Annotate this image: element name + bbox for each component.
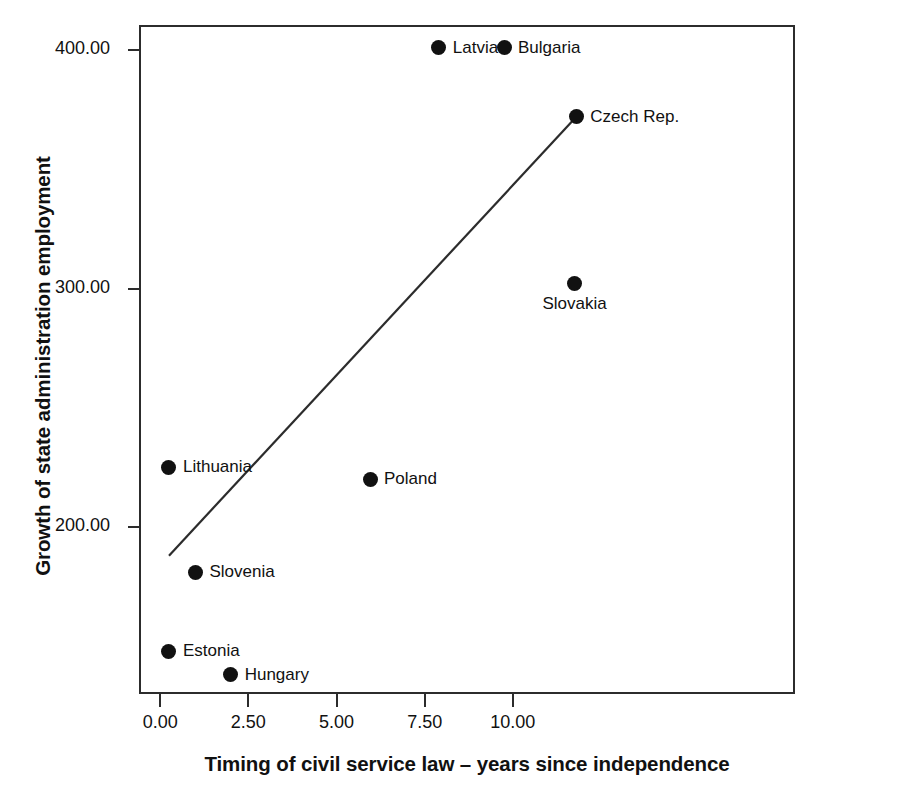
data-point-label: Slovenia <box>209 562 274 582</box>
data-point[interactable] <box>497 40 512 55</box>
data-point[interactable] <box>161 644 176 659</box>
y-tick-label: 200.00 <box>0 515 110 536</box>
data-point-label: Lithuania <box>183 457 252 477</box>
plot-frame <box>139 25 795 694</box>
y-tick-mark <box>128 288 139 290</box>
x-tick-label: 10.00 <box>453 712 573 733</box>
x-tick-mark <box>336 694 338 707</box>
data-point-label: Latvia <box>453 38 498 58</box>
data-point-label: Czech Rep. <box>590 107 679 127</box>
data-point-label: Hungary <box>245 665 309 685</box>
y-axis-title: Growth of state administration employmen… <box>31 36 55 696</box>
data-point[interactable] <box>188 565 203 580</box>
data-point-label: Estonia <box>183 641 240 661</box>
y-tick-label: 300.00 <box>0 277 110 298</box>
y-tick-label: 400.00 <box>0 38 110 59</box>
data-point[interactable] <box>363 472 378 487</box>
y-tick-mark <box>128 526 139 528</box>
x-tick-mark <box>247 694 249 707</box>
data-point-label: Slovakia <box>542 294 606 314</box>
x-tick-mark <box>512 694 514 707</box>
scatter-plot-figure: Growth of state administration employmen… <box>0 0 898 794</box>
x-tick-mark <box>424 694 426 707</box>
data-point-label: Bulgaria <box>518 38 580 58</box>
x-axis-title: Timing of civil service law – years sinc… <box>139 752 795 776</box>
data-point-label: Poland <box>384 469 437 489</box>
y-tick-mark <box>128 49 139 51</box>
x-tick-mark <box>159 694 161 707</box>
